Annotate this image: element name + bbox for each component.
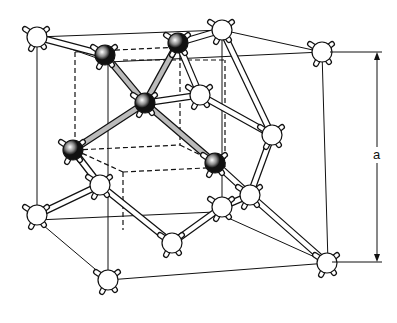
dark-atom	[168, 33, 188, 53]
light-atom	[190, 85, 210, 105]
lattice-svg	[0, 0, 397, 323]
arrowhead-up-icon	[374, 52, 380, 60]
inner-cube-edge	[75, 145, 180, 150]
light-atom	[212, 197, 232, 217]
light-atom	[262, 125, 282, 145]
light-atom	[162, 233, 182, 253]
light-atom	[240, 185, 260, 205]
light-atom	[317, 253, 337, 273]
cube-edge	[222, 30, 322, 52]
arrowhead-down-icon	[374, 254, 380, 262]
cube-edge	[37, 212, 215, 220]
light-atom	[98, 270, 118, 290]
dark-atom	[95, 45, 115, 65]
cube-edge	[215, 212, 328, 263]
diamond-lattice-diagram: a	[0, 0, 397, 323]
light-atom	[90, 175, 110, 195]
lattice-constant-label: a	[373, 147, 380, 162]
dark-atom	[63, 140, 83, 160]
cube-edge	[108, 263, 328, 280]
cube-edge	[322, 52, 328, 263]
light-atom	[27, 205, 47, 225]
light-atom	[212, 20, 232, 40]
light-atom	[27, 27, 47, 47]
light-atom	[312, 42, 332, 62]
dark-atom	[135, 93, 155, 113]
dark-atom	[205, 153, 225, 173]
